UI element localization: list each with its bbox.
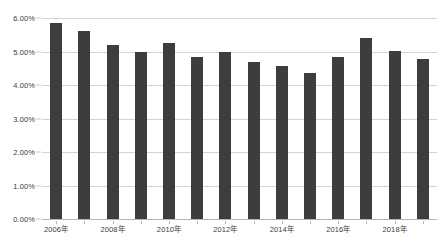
- y-axis-tick-label: 4.00%: [13, 81, 35, 90]
- bar: [360, 38, 372, 219]
- y-axis-tick-label: 1.00%: [13, 181, 35, 190]
- y-axis-tick-mark: [36, 185, 41, 186]
- bar: [248, 62, 260, 219]
- x-axis-tick-mark: [84, 221, 85, 224]
- x-axis: 2006年2008年2010年2012年2014年2016年2018年: [42, 221, 437, 241]
- x-axis-tick-mark: [423, 221, 424, 224]
- x-axis-tick-label: 2016年: [326, 223, 350, 234]
- bar: [219, 52, 231, 220]
- x-axis-tick-mark: [141, 221, 142, 224]
- x-axis-tick-mark: [254, 221, 255, 224]
- x-axis-tick-label: 2008年: [100, 223, 124, 234]
- y-axis-tick-label: 6.00%: [13, 14, 35, 23]
- y-axis-tick-mark: [36, 152, 41, 153]
- bar: [50, 23, 62, 219]
- bar: [78, 31, 90, 219]
- x-axis-tick-mark: [310, 221, 311, 224]
- x-axis-tick-label: 2012年: [213, 223, 237, 234]
- x-axis-tick-label: 2010年: [157, 223, 181, 234]
- x-axis-tick-label: 2014年: [270, 223, 294, 234]
- y-axis-tick-mark: [36, 219, 41, 220]
- x-axis-tick-mark: [366, 221, 367, 224]
- x-axis-tick-label: 2006年: [44, 223, 68, 234]
- bar: [163, 43, 175, 219]
- y-axis-tick-label: 5.00%: [13, 47, 35, 56]
- bars-layer: [42, 18, 437, 219]
- y-axis-tick-mark: [36, 118, 41, 119]
- bar: [417, 59, 429, 219]
- bar: [135, 52, 147, 219]
- bar: [191, 57, 203, 219]
- y-axis: 0.00%1.00%2.00%3.00%4.00%5.00%6.00%: [0, 0, 40, 251]
- bar-chart: 0.00%1.00%2.00%3.00%4.00%5.00%6.00% 2006…: [0, 0, 445, 251]
- bar: [107, 45, 119, 219]
- x-axis-tick-mark: [197, 221, 198, 224]
- x-axis-tick-label: 2018年: [383, 223, 407, 234]
- bar: [276, 66, 288, 219]
- x-axis-line: [42, 219, 437, 220]
- plot-area: [42, 18, 437, 219]
- bar: [304, 73, 316, 219]
- y-axis-tick-mark: [36, 18, 41, 19]
- y-axis-tick-label: 2.00%: [13, 148, 35, 157]
- y-axis-tick-label: 3.00%: [13, 114, 35, 123]
- y-axis-tick-label: 0.00%: [13, 215, 35, 224]
- y-axis-tick-mark: [36, 85, 41, 86]
- bar: [332, 57, 344, 219]
- bar: [389, 51, 401, 219]
- y-axis-tick-mark: [36, 51, 41, 52]
